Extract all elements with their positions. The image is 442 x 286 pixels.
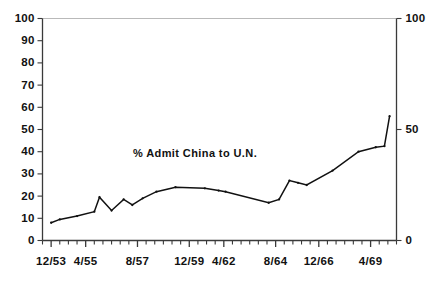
data-point <box>357 151 359 153</box>
y-axis-left-tick-label: 0 <box>28 235 35 247</box>
data-point <box>123 198 125 200</box>
y-axis-left-tick-label: 40 <box>21 146 34 158</box>
data-series-line <box>51 116 389 223</box>
data-point <box>306 184 308 186</box>
data-point <box>93 210 95 212</box>
chart-container: 0102030405060708090100 050100 12/534/558… <box>0 0 442 286</box>
data-point <box>174 186 176 188</box>
y-axis-left-tick-label: 10 <box>21 213 34 225</box>
y-axis-right-tick-label: 50 <box>406 124 419 136</box>
y-axis-left-tick-label: 30 <box>21 168 34 180</box>
y-axis-left-tick-label: 100 <box>15 13 35 25</box>
data-point <box>297 182 299 184</box>
x-axis-tick-label: 4/69 <box>341 256 401 268</box>
y-axis-left-tick-label: 20 <box>21 191 34 203</box>
chart-plot-svg <box>0 0 442 286</box>
data-point <box>224 191 226 193</box>
data-point <box>375 146 377 148</box>
y-axis-left-tick-label: 60 <box>21 102 34 114</box>
data-point <box>288 179 290 181</box>
data-point <box>204 187 206 189</box>
y-axis-left-tick-label: 70 <box>21 80 34 92</box>
data-point <box>50 222 52 224</box>
y-axis-left-tick-label: 50 <box>21 124 34 136</box>
data-point <box>155 191 157 193</box>
data-point <box>98 196 100 198</box>
data-point <box>383 145 385 147</box>
data-point <box>268 202 270 204</box>
y-axis-left-tick-label: 90 <box>21 35 34 47</box>
data-point <box>131 204 133 206</box>
y-axis-right-tick-label: 0 <box>406 235 413 247</box>
data-point <box>278 198 280 200</box>
data-point <box>388 115 390 117</box>
y-axis-left-tick-label: 80 <box>21 57 34 69</box>
data-point <box>110 209 112 211</box>
data-point <box>217 189 219 191</box>
data-point <box>142 197 144 199</box>
data-point <box>59 218 61 220</box>
series-annotation-label: % Admit China to U.N. <box>133 148 257 159</box>
y-axis-right-tick-label: 100 <box>406 13 426 25</box>
data-point <box>76 215 78 217</box>
data-point <box>331 169 333 171</box>
